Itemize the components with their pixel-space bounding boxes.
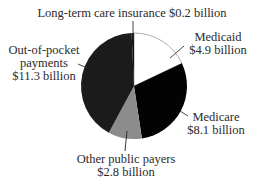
slice-label-medicaid: Medicaid$4.9 billion [189, 30, 247, 57]
slice-name-label: Long-term care insurance $0.2 billion [37, 6, 227, 20]
slice-label-medicare: Medicare$8.1 billion [187, 110, 245, 137]
pie-slices [81, 33, 187, 139]
leader-line-medicare [180, 111, 188, 116]
slice-value-label: $11.3 billion [12, 69, 76, 83]
pie-chart: Medicaid$4.9 billionMedicare$8.1 billion… [0, 0, 259, 186]
slice-value-label: $4.9 billion [189, 43, 247, 57]
slice-name-label: Out-of-pocket [9, 43, 80, 57]
slice-value-label: $2.8 billion [97, 165, 155, 179]
slice-value-label: $8.1 billion [187, 123, 245, 137]
pie-chart-svg: Medicaid$4.9 billionMedicare$8.1 billion… [0, 0, 259, 186]
slice-name-label: Medicaid [194, 30, 242, 44]
slice-label-long-term-care-insurance: Long-term care insurance $0.2 billion [37, 6, 227, 20]
slice-label-out-of-pocket: Out-of-pocketpayments$11.3 billion [9, 43, 80, 83]
slice-name-label: payments [20, 56, 68, 70]
slice-label-other-public: Other public payers$2.8 billion [77, 152, 176, 179]
slice-name-label: Medicare [192, 110, 240, 124]
slice-name-label: Other public payers [77, 152, 176, 166]
